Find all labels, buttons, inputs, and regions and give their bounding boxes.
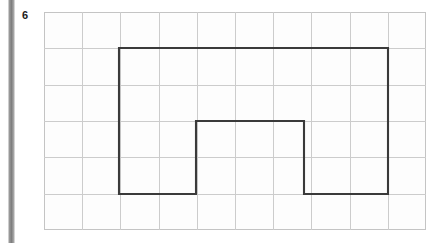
- page-edge-bar: [8, 0, 15, 243]
- worksheet-page: 6: [0, 0, 444, 243]
- figure-stage: [44, 12, 426, 230]
- question-number: 6: [22, 8, 28, 22]
- grid-figure-svg: [44, 12, 426, 230]
